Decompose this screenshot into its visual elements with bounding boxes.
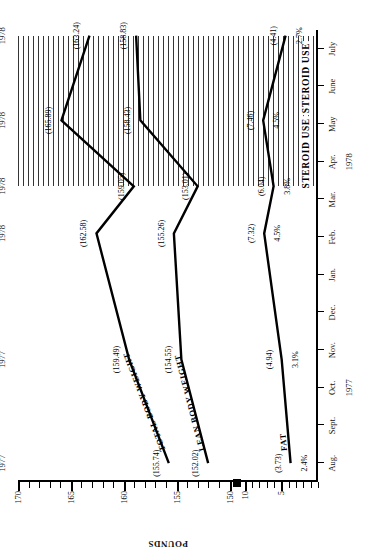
y-axis-tick <box>50 482 51 488</box>
x-axis-tick <box>318 425 324 426</box>
y-axis-tick <box>267 482 268 488</box>
y-axis-tick-label: 170 <box>13 491 23 504</box>
chart-figure: POUNDS STEROID USESTEROID USEAug. 24,197… <box>0 0 380 554</box>
x-axis-month-label: Apr. <box>327 154 337 169</box>
data-point-label: (159.49) <box>112 346 121 373</box>
y-axis-tick <box>311 482 312 488</box>
data-point-percent-label: 3.8% <box>282 178 291 195</box>
data-point-percent-label: 4.5% <box>273 225 282 242</box>
x-axis-month-label: Sept. <box>327 417 337 434</box>
x-axis-month-label: Oct. <box>327 381 337 395</box>
x-axis-tick <box>318 236 324 237</box>
y-axis-tick <box>219 482 220 488</box>
data-point-percent-label: 3.1% <box>290 351 299 368</box>
y-axis-tick <box>318 482 319 488</box>
y-axis-tick <box>124 482 126 491</box>
y-axis-tick <box>230 482 232 491</box>
y-axis-tick-label: 165 <box>66 491 76 504</box>
x-axis-tick <box>318 312 324 313</box>
steroid-use-band-label: STEROID USE <box>300 41 312 115</box>
y-axis-tick <box>259 482 260 488</box>
data-point-label: (4.41) <box>268 26 277 45</box>
measurement-date-header: Nov. 15,1977 <box>0 345 7 374</box>
y-axis-tick <box>18 482 20 491</box>
y-axis-tick <box>303 482 304 488</box>
data-point-label: (152.02) <box>191 450 200 477</box>
y-axis-tick <box>166 482 167 488</box>
y-axis-tick <box>198 482 199 488</box>
data-point-label: (158.43) <box>123 107 132 134</box>
y-axis-tick-label: 10 <box>240 491 250 500</box>
y-axis-tick <box>29 482 30 488</box>
x-axis-month-label: Jan. <box>327 268 337 281</box>
x-axis-month-label: Nov. <box>327 342 337 358</box>
y-axis-title: POUNDS <box>148 539 188 549</box>
y-axis-tick <box>245 482 247 491</box>
y-axis-tick <box>155 482 156 488</box>
x-axis-year-label: 1977 <box>344 379 354 396</box>
x-axis-month-label: May <box>327 116 337 132</box>
steroid-use-band-label: STEROID USE <box>300 116 312 190</box>
x-axis-month-label: Mar. <box>327 192 337 208</box>
series-line <box>61 36 168 464</box>
y-axis-tick <box>71 482 73 491</box>
x-axis-tick <box>318 161 324 162</box>
y-axis-tick <box>252 482 253 488</box>
x-axis-tick <box>318 86 324 87</box>
y-axis-tick <box>92 482 93 488</box>
y-axis-tick <box>39 482 40 488</box>
y-axis-tick <box>145 482 146 488</box>
y-axis-tick <box>113 482 114 488</box>
y-axis-tick <box>281 482 283 491</box>
data-point-label: (7.46) <box>246 111 255 130</box>
measurement-date-header: Aug. 24,1977 <box>0 448 7 478</box>
data-point-percent-label: 4.5% <box>272 112 281 129</box>
measurement-date-header: Mar. 29,1978 <box>0 172 7 201</box>
x-axis-month-label: Dec. <box>327 305 337 321</box>
measurement-date-header: Feb. 15,1978 <box>0 220 7 248</box>
y-axis-tick <box>177 482 179 491</box>
y-axis-tick-label: 160 <box>119 491 129 504</box>
x-axis-month-label: Feb. <box>327 230 337 245</box>
x-axis-tick <box>318 123 324 124</box>
measurement-date-header: May 16,1978 <box>0 106 7 134</box>
data-point-percent-label: 2.7% <box>294 27 303 44</box>
y-axis-tick <box>81 482 82 488</box>
y-axis-tick <box>274 482 275 488</box>
data-point-label: (163.24) <box>72 22 81 49</box>
y-axis-tick-label: 155 <box>172 491 182 504</box>
y-axis-tick <box>60 482 61 488</box>
data-point-label: (4.94) <box>264 350 273 369</box>
x-axis-tick <box>318 48 324 49</box>
data-point-label: (155.26) <box>156 220 165 247</box>
series-inline-label: FAT <box>277 433 288 452</box>
y-axis-tick <box>134 482 135 488</box>
x-axis-tick <box>318 274 324 275</box>
plot-area: POUNDS STEROID USESTEROID USEAug. 24,197… <box>18 30 318 482</box>
y-axis-break-marker <box>233 479 241 487</box>
data-point-label: (158.83) <box>119 22 128 49</box>
x-axis-tick <box>318 199 324 200</box>
data-point-label: (6.04) <box>256 177 265 196</box>
y-axis-tick <box>208 482 209 488</box>
data-point-label: (159.05) <box>116 173 125 200</box>
data-point-label: (153.01) <box>180 173 189 200</box>
series-line <box>263 36 290 464</box>
data-point-label: (165.89) <box>44 107 53 134</box>
x-axis-year-label: 1978 <box>344 153 354 170</box>
x-axis-tick <box>318 387 324 388</box>
data-point-label: (155.74) <box>151 450 160 477</box>
x-axis-tick <box>318 462 324 463</box>
x-axis-tick <box>318 349 324 350</box>
x-axis-month-label: July <box>327 42 337 56</box>
y-axis-tick <box>296 482 297 488</box>
data-point-percent-label: 2.4% <box>299 455 308 472</box>
data-point-label: (7.32) <box>247 224 256 243</box>
x-axis-month-label: June <box>327 79 337 95</box>
measurement-date-header: July 26,1978 <box>0 22 7 49</box>
y-axis-tick <box>103 482 104 488</box>
rotated-figure-wrapper: POUNDS STEROID USESTEROID USEAug. 24,197… <box>0 0 380 554</box>
data-point-label: (162.58) <box>79 220 88 247</box>
y-axis-tick-label: 150 <box>225 491 235 504</box>
data-point-label: (154.55) <box>164 346 173 373</box>
